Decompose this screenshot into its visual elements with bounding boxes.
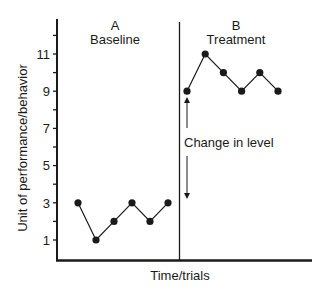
- phase-b-name: Treatment: [207, 32, 266, 47]
- series-line-treatment: [187, 54, 278, 91]
- y-tick-label-3: 3: [43, 196, 50, 211]
- data-point: [202, 50, 209, 57]
- phase-b-letter: B: [232, 18, 241, 33]
- single-subject-design-chart: 11 9 7 5 3 1 Unit of performance/behavio…: [0, 0, 326, 297]
- y-tick-label-7: 7: [43, 121, 50, 136]
- data-point: [238, 88, 245, 95]
- data-point: [183, 88, 190, 95]
- y-tick-label-5: 5: [43, 158, 50, 173]
- y-tick-label-11: 11: [37, 47, 51, 62]
- data-point: [256, 69, 263, 76]
- x-axis-label: Time/trials: [150, 268, 210, 283]
- y-tick-label-9: 9: [43, 84, 50, 99]
- series-line-baseline: [78, 203, 168, 240]
- y-axis-label: Unit of performance/behavior: [15, 64, 30, 232]
- data-point: [164, 199, 171, 206]
- y-tick-label-1: 1: [43, 233, 50, 248]
- data-point: [220, 69, 227, 76]
- data-point: [92, 236, 99, 243]
- phase-a-name: Baseline: [90, 32, 140, 47]
- data-point: [146, 218, 153, 225]
- data-point: [74, 199, 81, 206]
- data-point: [110, 218, 117, 225]
- phase-a-letter: A: [111, 18, 120, 33]
- annotation-label: Change in level: [184, 135, 274, 150]
- y-tick-labels: 11 9 7 5 3 1: [37, 47, 51, 248]
- data-point: [274, 88, 281, 95]
- data-point: [128, 199, 135, 206]
- change-in-level-annotation: Change in level: [184, 100, 274, 196]
